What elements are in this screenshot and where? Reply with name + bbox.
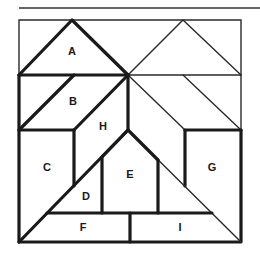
label-b: B <box>69 95 77 107</box>
tangram-diagram: A B C D E F G H I <box>0 0 260 256</box>
label-i: I <box>178 221 181 233</box>
piece-e-roof <box>102 130 158 160</box>
label-d: D <box>82 190 90 202</box>
outer-frame-top <box>19 20 241 75</box>
label-a: A <box>68 45 76 57</box>
label-c: C <box>43 161 51 173</box>
ghost-triangle-outline <box>128 20 241 75</box>
ghost-parallelogram-edge <box>183 75 241 130</box>
label-e: E <box>126 168 133 180</box>
label-f: F <box>80 221 87 233</box>
label-g: G <box>208 161 217 173</box>
ghost-diagonal <box>128 75 185 130</box>
piece-b-left-edge <box>19 75 74 130</box>
label-h: H <box>99 120 107 132</box>
